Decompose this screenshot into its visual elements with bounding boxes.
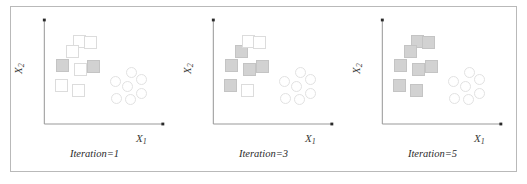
plot-panel-2: X2X1Iteration=3 [179, 6, 348, 172]
y-axis-label-text: X [12, 67, 24, 74]
data-point-circle [111, 93, 122, 104]
data-point-square [256, 60, 269, 73]
data-point-circle [294, 94, 305, 105]
data-point-square [425, 60, 438, 73]
data-point-circle [463, 94, 474, 105]
y-axis-label: X2 [12, 63, 26, 74]
plot-panel-1: X2X1Iteration=1 [10, 6, 179, 172]
data-point-square [253, 36, 266, 49]
data-point-circle [305, 74, 316, 85]
data-point-circle [110, 76, 121, 87]
y-axis-label-sub: 2 [355, 63, 364, 67]
data-point-square [72, 84, 85, 97]
marker-layer [374, 16, 505, 138]
data-point-circle [305, 88, 316, 99]
data-point-circle [136, 74, 147, 85]
plot-area [374, 16, 505, 138]
data-point-circle [279, 76, 290, 87]
data-point-square [224, 79, 237, 92]
data-point-circle [295, 67, 306, 78]
data-point-square [225, 59, 238, 72]
plot-panel-3: X2X1Iteration=5 [348, 6, 517, 172]
panel-caption: Iteration=3 [179, 148, 348, 159]
data-point-circle [125, 94, 136, 105]
plot-area [36, 16, 167, 138]
panel-caption: Iteration=1 [10, 148, 179, 159]
data-point-square [87, 60, 100, 73]
data-point-square [241, 84, 254, 97]
panel-row: X2X1Iteration=1X2X1Iteration=3X2X1Iterat… [10, 6, 517, 172]
data-point-circle [126, 67, 137, 78]
x-axis-label-sub: 1 [143, 137, 147, 146]
x-axis-label: X1 [136, 132, 147, 146]
y-axis-label-sub: 2 [186, 63, 195, 67]
data-point-square [55, 79, 68, 92]
data-point-square [410, 84, 423, 97]
x-axis-label-sub: 1 [312, 137, 316, 146]
x-axis-label-text: X [136, 132, 143, 144]
data-point-circle [291, 81, 302, 92]
data-point-circle [449, 93, 460, 104]
y-axis-label-sub: 2 [17, 63, 26, 67]
data-point-square [74, 63, 87, 76]
plot-area [205, 16, 336, 138]
data-point-square [393, 79, 406, 92]
data-point-square [404, 45, 417, 58]
data-point-circle [448, 76, 459, 87]
data-point-square [412, 63, 425, 76]
data-point-square [84, 36, 97, 49]
data-point-square [66, 45, 79, 58]
figure-container: X2X1Iteration=1X2X1Iteration=3X2X1Iterat… [0, 0, 527, 184]
data-point-circle [474, 74, 485, 85]
data-point-circle [460, 81, 471, 92]
data-point-square [422, 36, 435, 49]
data-point-circle [474, 88, 485, 99]
data-point-square [394, 59, 407, 72]
x-axis-label: X1 [474, 132, 485, 146]
data-point-circle [136, 88, 147, 99]
x-axis-label-sub: 1 [481, 137, 485, 146]
y-axis-label: X2 [350, 63, 364, 74]
data-point-circle [280, 93, 291, 104]
x-axis-label: X1 [305, 132, 316, 146]
marker-layer [36, 16, 167, 138]
x-axis-label-text: X [305, 132, 312, 144]
data-point-square [243, 63, 256, 76]
data-point-circle [122, 81, 133, 92]
x-axis-label-text: X [474, 132, 481, 144]
panel-caption: Iteration=5 [348, 148, 517, 159]
y-axis-label-text: X [350, 67, 362, 74]
data-point-circle [464, 67, 475, 78]
y-axis-label: X2 [181, 63, 195, 74]
data-point-square [56, 59, 69, 72]
y-axis-label-text: X [181, 67, 193, 74]
marker-layer [205, 16, 336, 138]
